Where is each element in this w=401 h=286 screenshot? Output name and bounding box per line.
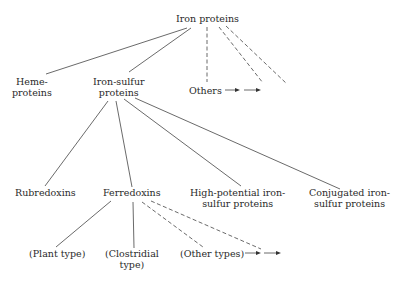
iron-protein-classification-diagram: Iron proteins Heme- proteins Iron-sulfur… [0,0,401,286]
connector-lines [0,0,401,286]
edge-ironsulfur-rubredoxins [45,101,108,186]
node-clostridial-line1: (Clostridial [105,248,159,259]
arrowhead-icon [256,251,261,255]
node-other-types: (Other types) [180,248,244,259]
node-iron-sulfur-proteins: Iron-sulfur proteins [93,76,145,98]
node-rubredoxins: Rubredoxins [15,187,76,198]
node-conjugated-line2: sulfur proteins [309,198,390,209]
node-plant-type: (Plant type) [29,248,85,259]
node-iron-sulfur-line2: proteins [93,87,145,98]
arrowhead-icon [276,251,281,255]
node-conjugated-line1: Conjugated iron- [309,187,390,198]
node-iron-proteins: Iron proteins [176,13,239,24]
node-ferredoxins: Ferredoxins [103,187,161,198]
edge-ferredoxins-plant [56,201,111,247]
node-heme-proteins: Heme- proteins [12,76,52,98]
node-clostridial-line2: type) [105,259,159,270]
node-heme-proteins-line1: Heme- [12,76,52,87]
node-iron-sulfur-line1: Iron-sulfur [93,76,145,87]
edge-ferredoxins-clostridial [133,202,134,248]
node-high-potential: High-potential iron- sulfur proteins [190,187,285,209]
arrowhead-icon [235,88,240,92]
arrowhead-icon [256,88,261,92]
edge-root-heme [46,28,187,74]
node-heme-proteins-line2: proteins [12,87,52,98]
edge-ironsulfur-ferredoxins [116,101,132,187]
node-high-potential-line1: High-potential iron- [190,187,285,198]
edge-ironsulfur-highpotential [124,99,241,186]
node-conjugated: Conjugated iron- sulfur proteins [309,187,390,209]
edge-ironsulfur-conjugated [135,98,340,189]
node-clostridial-type: (Clostridial type) [105,248,159,270]
node-others: Others [189,85,222,96]
node-high-potential-line2: sulfur proteins [190,198,285,209]
edge-root-ironsulfur [129,28,191,72]
